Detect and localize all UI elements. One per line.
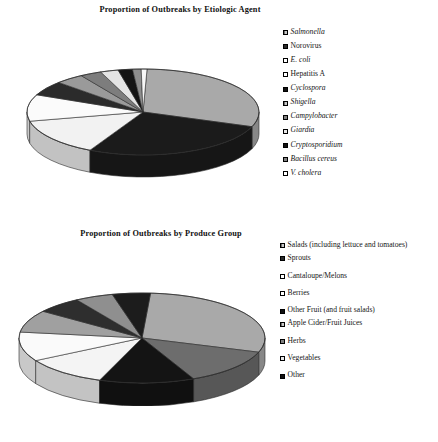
- legend-item-label: Campylobacter: [291, 112, 338, 120]
- legend-item-label: Cryptosporidium: [291, 141, 343, 149]
- legend-swatch-icon: [280, 256, 285, 261]
- legend-item[interactable]: Herbs: [280, 337, 438, 345]
- legend-swatch-icon: [283, 58, 288, 63]
- legend-item[interactable]: Campylobacter: [283, 112, 438, 120]
- legend-swatch-icon: [280, 374, 285, 379]
- legend-item[interactable]: Hepatitis A: [283, 70, 438, 78]
- legend-swatch-icon: [280, 356, 285, 361]
- legend-item[interactable]: Cryptosporidium: [283, 141, 438, 149]
- legend-item[interactable]: E. coli: [283, 56, 438, 64]
- legend-item-label: Vegetables: [288, 354, 321, 362]
- pie-chart-produce-group: [6, 276, 278, 406]
- legend-item-label: Apple Cider/Fruit Juices: [288, 319, 363, 327]
- legend-item[interactable]: Salmonella: [283, 28, 438, 36]
- legend-item-label: V. cholera: [291, 169, 322, 177]
- legend-item-label: Bacillus cereus: [291, 155, 337, 163]
- legend-swatch-icon: [283, 129, 288, 134]
- legend-item-label: Salmonella: [291, 28, 325, 36]
- legend-item[interactable]: Salads (including lettuce and tomatoes): [280, 241, 438, 249]
- chart2-title: Proportion of Outbreaks by Produce Group: [0, 229, 322, 238]
- legend-item-label: Norovirus: [291, 42, 322, 50]
- legend-swatch-icon: [283, 143, 288, 148]
- legend-produce-group: Salads (including lettuce and tomatoes)S…: [280, 241, 438, 389]
- legend-swatch-icon: [280, 309, 285, 314]
- legend-item-label: Sprouts: [288, 254, 311, 262]
- legend-item-label: Shigella: [291, 98, 316, 106]
- legend-swatch-icon: [283, 157, 288, 162]
- legend-swatch-icon: [280, 243, 285, 248]
- legend-item-label: Cantaloupe/Melons: [288, 272, 347, 280]
- legend-item[interactable]: Cantaloupe/Melons: [280, 272, 438, 280]
- legend-item[interactable]: Apple Cider/Fruit Juices: [280, 319, 438, 327]
- legend-item-label: Hepatitis A: [291, 70, 325, 78]
- chart1-title: Proportion of Outbreaks by Etiologic Age…: [0, 5, 360, 14]
- legend-swatch-icon: [283, 101, 288, 106]
- legend-item-label: Salads (including lettuce and tomatoes): [288, 241, 408, 249]
- legend-item-label: Other: [288, 371, 305, 379]
- pie-chart-etiologic-agent: [14, 52, 272, 180]
- legend-swatch-icon: [283, 115, 288, 120]
- legend-swatch-icon: [280, 322, 285, 327]
- legend-swatch-icon: [283, 30, 288, 35]
- legend-swatch-icon: [283, 171, 288, 176]
- legend-item-label: Berries: [288, 289, 310, 297]
- legend-item-label: E. coli: [291, 56, 311, 64]
- legend-item[interactable]: Vegetables: [280, 354, 438, 362]
- legend-item[interactable]: Other Fruit (and fruit salads): [280, 306, 438, 314]
- legend-item[interactable]: Norovirus: [283, 42, 438, 50]
- legend-etiologic-agent: SalmonellaNorovirusE. coliHepatitis ACyc…: [283, 28, 438, 183]
- legend-item[interactable]: Berries: [280, 289, 438, 297]
- legend-swatch-icon: [283, 87, 288, 92]
- legend-swatch-icon: [280, 339, 285, 344]
- legend-item[interactable]: V. cholera: [283, 169, 438, 177]
- legend-swatch-icon: [283, 44, 288, 49]
- legend-item-label: Other Fruit (and fruit salads): [288, 306, 375, 314]
- legend-item[interactable]: Bacillus cereus: [283, 155, 438, 163]
- pie-chart-2-svg: [6, 276, 278, 406]
- legend-item-label: Herbs: [288, 337, 306, 345]
- legend-swatch-icon: [280, 274, 285, 279]
- legend-item-label: Giardia: [291, 126, 315, 134]
- legend-item-label: Cyclospora: [291, 84, 326, 92]
- legend-item[interactable]: Shigella: [283, 98, 438, 106]
- legend-item[interactable]: Giardia: [283, 126, 438, 134]
- legend-item[interactable]: Cyclospora: [283, 84, 438, 92]
- legend-item[interactable]: Other: [280, 371, 438, 379]
- pie-chart-1-svg: [14, 52, 272, 180]
- legend-item[interactable]: Sprouts: [280, 254, 438, 262]
- legend-swatch-icon: [283, 72, 288, 77]
- legend-swatch-icon: [280, 291, 285, 296]
